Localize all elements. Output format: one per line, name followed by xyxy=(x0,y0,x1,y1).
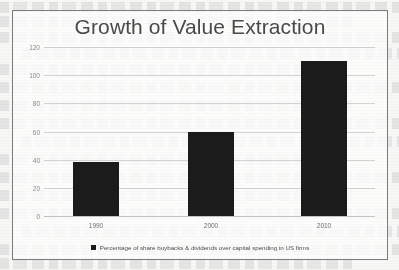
x-axis-tick-label: 1990 xyxy=(46,222,146,229)
bar-2000[interactable]: 2000 xyxy=(188,132,234,217)
y-axis-tick-label: 80 xyxy=(33,100,40,107)
y-axis-tick-label: 0 xyxy=(36,213,40,220)
x-axis-baseline: 0 xyxy=(44,216,375,217)
chart-legend: Percentage of share buybacks & dividends… xyxy=(13,244,387,251)
plot-area: 120 100 80 60 40 20 0 1990 2000 20 xyxy=(44,47,375,216)
x-axis-tick-label: 2000 xyxy=(161,222,261,229)
y-axis-tick-label: 100 xyxy=(29,72,40,79)
chart-title: Growth of Value Extraction xyxy=(13,15,387,39)
y-axis-tick-label: 60 xyxy=(33,128,40,135)
chart-container: Growth of Value Extraction 120 100 80 60… xyxy=(12,10,388,260)
legend-label: Percentage of share buybacks & dividends… xyxy=(100,244,309,251)
bar-2010[interactable]: 2010 xyxy=(301,61,347,216)
y-axis-tick-label: 40 xyxy=(33,156,40,163)
legend-color-swatch-icon xyxy=(91,245,96,250)
x-axis-tick-label: 2010 xyxy=(274,222,374,229)
bar-1990[interactable]: 1990 xyxy=(73,162,119,216)
y-axis-tick-label: 120 xyxy=(29,44,40,51)
bar-series: 1990 2000 2010 xyxy=(44,47,375,216)
y-axis-tick-label: 20 xyxy=(33,184,40,191)
